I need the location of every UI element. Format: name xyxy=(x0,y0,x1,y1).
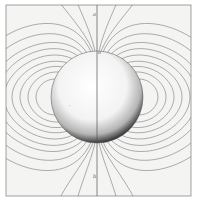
sphere-mark: . xyxy=(69,101,71,107)
label-top-outer: a xyxy=(93,11,96,17)
field-line-illustration xyxy=(0,0,198,204)
label-top-pole: a xyxy=(98,49,101,55)
label-bottom-outer: b xyxy=(93,173,96,179)
